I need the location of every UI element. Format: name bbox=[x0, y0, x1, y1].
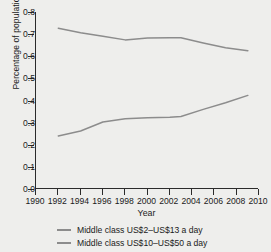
x-tick-mark bbox=[80, 189, 81, 195]
x-tick-mark bbox=[236, 189, 237, 195]
legend-item-1[interactable]: Middle class US$2–US$13 a day bbox=[0, 223, 271, 236]
line-chart: Percentage of population 0.00.10.20.30.4… bbox=[0, 0, 271, 252]
y-tick-label: 0.5 bbox=[9, 73, 35, 83]
legend-line-swatch-icon bbox=[57, 242, 71, 244]
y-tick-label: 0.6 bbox=[9, 51, 35, 61]
plot-area bbox=[35, 12, 258, 189]
legend-item-label: Middle class US$10–US$50 a day bbox=[77, 238, 207, 248]
y-tick-label: 0.4 bbox=[9, 96, 35, 106]
series-line-1 bbox=[58, 28, 248, 51]
legend-line-swatch-icon bbox=[57, 229, 71, 231]
y-tick-label: 0.3 bbox=[9, 118, 35, 128]
x-tick-mark bbox=[169, 189, 170, 195]
plot-lines bbox=[36, 12, 259, 189]
x-tick-mark bbox=[191, 189, 192, 195]
x-tick-mark bbox=[124, 189, 125, 195]
legend-item-label: Middle class US$2–US$13 a day bbox=[77, 225, 203, 235]
y-tick-label: 0.2 bbox=[9, 140, 35, 150]
x-tick-label: 2010 bbox=[243, 196, 271, 206]
series-line-2 bbox=[58, 95, 248, 135]
x-tick-mark bbox=[258, 189, 259, 195]
y-tick-label: 0.0 bbox=[9, 184, 35, 194]
x-tick-mark bbox=[213, 189, 214, 195]
x-tick-mark bbox=[35, 189, 36, 195]
y-tick-label: 0.1 bbox=[9, 162, 35, 172]
x-tick-mark bbox=[102, 189, 103, 195]
y-tick-label: 0.7 bbox=[9, 29, 35, 39]
legend-item-2[interactable]: Middle class US$10–US$50 a day bbox=[0, 236, 271, 249]
x-tick-mark bbox=[57, 189, 58, 195]
chart-legend: Middle class US$2–US$13 a dayMiddle clas… bbox=[0, 223, 271, 249]
x-axis-title: Year bbox=[35, 208, 258, 218]
y-tick-label: 0.8 bbox=[9, 7, 35, 17]
x-tick-mark bbox=[147, 189, 148, 195]
